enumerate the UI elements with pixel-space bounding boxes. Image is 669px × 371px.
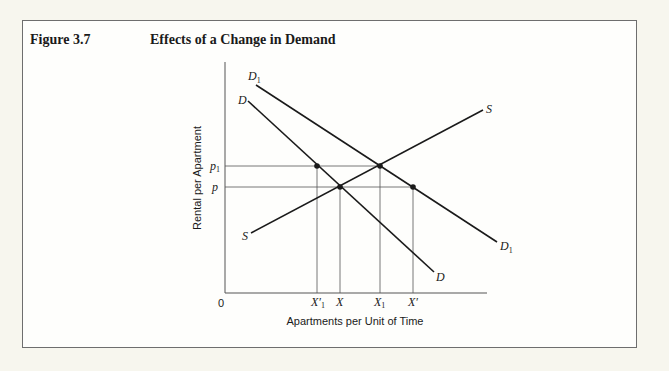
point-D-p1 (314, 163, 320, 169)
x-axis-title: Apartments per Unit of Time (287, 315, 424, 327)
label-D1-bottom: D1 (499, 239, 513, 255)
y-tick-p1: p1 (209, 159, 220, 174)
y-tick-p: p (211, 180, 218, 194)
x-tick-x1prime: X′1 (310, 295, 325, 310)
x-tick-x1: X1 (373, 295, 385, 310)
guide-lines (225, 166, 413, 293)
x-tick-x: X (335, 295, 344, 309)
curves (248, 85, 497, 272)
label-D-top: D (237, 93, 247, 107)
x-tick-xprime: X′ (407, 295, 418, 309)
point-equilibrium-new (377, 163, 383, 169)
label-S-bottom: S (242, 229, 248, 243)
label-D1-top: D1 (247, 69, 261, 85)
label-D-bottom: D (435, 270, 445, 284)
supply-demand-chart: D1 D S S D1 D p1 p X′1 X X1 X′ 0 Apartme… (0, 0, 669, 371)
label-S-top: S (486, 102, 492, 116)
point-equilibrium-original (337, 184, 343, 190)
point-D1-p (410, 184, 416, 190)
supply-curve-S (251, 110, 483, 233)
origin-label: 0 (218, 297, 224, 309)
y-axis-title: Rental per Apartment (191, 126, 203, 230)
